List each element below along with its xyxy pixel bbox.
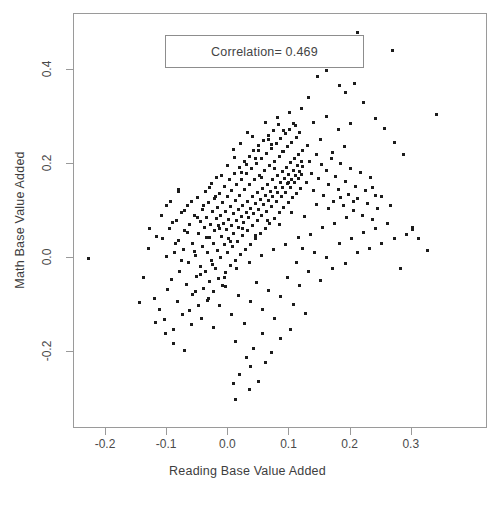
scatter-point xyxy=(256,191,259,194)
scatter-point xyxy=(234,340,237,343)
scatter-point xyxy=(325,169,328,172)
scatter-point xyxy=(217,277,220,280)
scatter-point xyxy=(248,261,251,264)
scatter-point xyxy=(273,217,276,220)
scatter-point xyxy=(232,232,235,235)
scatter-point xyxy=(244,248,247,251)
scatter-point xyxy=(293,181,296,184)
scatter-point xyxy=(301,247,304,250)
scatter-point xyxy=(220,235,223,238)
scatter-point xyxy=(180,211,183,214)
scatter-point xyxy=(301,149,304,152)
scatter-point xyxy=(183,209,186,212)
scatter-point xyxy=(362,231,365,234)
scatter-point xyxy=(374,194,377,197)
scatter-point xyxy=(249,243,252,246)
scatter-point xyxy=(142,276,145,279)
scatter-point xyxy=(174,242,177,245)
scatter-point xyxy=(294,124,297,127)
scatter-point xyxy=(211,210,214,213)
scatter-point xyxy=(254,202,257,205)
x-tick-label: -0.1 xyxy=(156,437,177,451)
scatter-point xyxy=(165,255,168,258)
scatter-point xyxy=(216,206,219,209)
scatter-point xyxy=(292,303,295,306)
scatter-point xyxy=(393,237,396,240)
scatter-point xyxy=(312,121,315,124)
scatter-point xyxy=(352,209,355,212)
scatter-point xyxy=(405,233,408,236)
scatter-point xyxy=(297,236,300,239)
scatter-point xyxy=(331,151,334,154)
scatter-point xyxy=(264,121,267,124)
scatter-point xyxy=(191,242,194,245)
scatter-point xyxy=(320,163,323,166)
scatter-point xyxy=(290,141,293,144)
scatter-point xyxy=(315,203,318,206)
scatter-point xyxy=(322,194,325,197)
scatter-point xyxy=(383,127,386,130)
scatter-point xyxy=(246,131,249,134)
scatter-point xyxy=(237,208,240,211)
scatter-point xyxy=(251,195,254,198)
scatter-point xyxy=(240,215,243,218)
scatter-point xyxy=(356,251,359,254)
scatter-point xyxy=(254,157,257,160)
scatter-point xyxy=(177,239,180,242)
scatter-point xyxy=(411,226,414,229)
scatter-point xyxy=(199,273,202,276)
scatter-point xyxy=(226,195,229,198)
x-tick-mark xyxy=(411,428,412,435)
scatter-point xyxy=(217,224,220,227)
scatter-point xyxy=(338,84,341,87)
scatter-point xyxy=(319,138,322,141)
scatter-point xyxy=(300,107,303,110)
scatter-point xyxy=(289,328,292,331)
scatter-point xyxy=(333,222,336,225)
scatter-point xyxy=(173,251,176,254)
scatter-point xyxy=(224,285,227,288)
scatter-point xyxy=(279,337,282,340)
scatter-point xyxy=(325,256,328,259)
scatter-point xyxy=(260,254,263,257)
scatter-point xyxy=(249,207,252,210)
scatter-point xyxy=(227,218,230,221)
scatter-point xyxy=(238,194,241,197)
scatter-point xyxy=(347,193,350,196)
x-tick-label: 0.2 xyxy=(341,437,358,451)
scatter-point xyxy=(270,143,273,146)
scatter-point xyxy=(266,183,269,186)
scatter-point xyxy=(259,198,262,201)
scatter-point xyxy=(369,176,372,179)
scatter-point xyxy=(245,356,248,359)
scatter-point xyxy=(202,204,205,207)
scatter-point xyxy=(178,270,181,273)
scatter-point xyxy=(236,240,239,243)
scatter-point xyxy=(171,221,174,224)
scatter-point xyxy=(279,137,282,140)
scatter-point xyxy=(362,101,365,104)
scatter-point xyxy=(187,261,190,264)
scatter-point xyxy=(204,190,207,193)
scatter-point xyxy=(313,251,316,254)
scatter-point xyxy=(234,199,237,202)
scatter-point xyxy=(224,210,227,213)
scatter-point xyxy=(342,204,345,207)
scatter-point xyxy=(312,189,315,192)
scatter-point xyxy=(303,215,306,218)
scatter-point xyxy=(243,322,246,325)
scatter-point xyxy=(264,227,267,230)
scatter-point xyxy=(235,183,238,186)
scatter-point xyxy=(246,229,249,232)
scatter-point xyxy=(300,160,303,163)
x-tick-mark xyxy=(105,428,106,435)
scatter-point xyxy=(237,294,240,297)
scatter-point xyxy=(289,186,292,189)
scatter-point xyxy=(295,192,298,195)
scatter-point xyxy=(391,49,394,52)
scatter-point xyxy=(270,205,273,208)
scatter-point xyxy=(230,189,233,192)
scatter-point xyxy=(300,173,303,176)
scatter-point xyxy=(248,183,251,186)
scatter-point xyxy=(223,276,226,279)
